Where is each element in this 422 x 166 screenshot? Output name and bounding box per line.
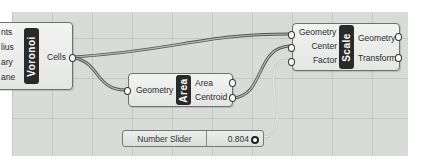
scale-output-geometry[interactable]: Geometry	[358, 33, 395, 43]
scale-input-geometry[interactable]: Geometry	[299, 27, 336, 37]
scale-geometry-in-grip[interactable]	[288, 31, 295, 39]
scale-component[interactable]: Geometry Center Factor Scale Geometry Tr…	[292, 23, 400, 71]
voronoi-input-points[interactable]: nts	[1, 27, 12, 37]
scale-label: Scale	[339, 25, 354, 69]
voronoi-output-cells[interactable]: Cells	[47, 52, 66, 62]
area-area-grip[interactable]	[229, 79, 236, 87]
area-output-area[interactable]: Area	[195, 78, 213, 88]
number-slider[interactable]: Number Slider 0.804	[122, 130, 264, 147]
voronoi-cells-grip[interactable]	[69, 54, 76, 62]
voronoi-input-boundary[interactable]: ary	[1, 57, 13, 67]
scale-center-grip[interactable]	[288, 44, 295, 52]
slider-name: Number Slider	[123, 131, 207, 146]
area-geometry-grip[interactable]	[124, 87, 131, 95]
area-centroid-grip[interactable]	[229, 94, 236, 102]
voronoi-label: Voronoi	[24, 28, 39, 84]
scale-input-factor[interactable]: Factor	[313, 55, 337, 65]
area-input-geometry[interactable]: Geometry	[136, 85, 173, 95]
area-label: Area	[176, 75, 191, 105]
scale-transform-out-grip[interactable]	[395, 54, 402, 62]
voronoi-input-plane[interactable]: ane	[1, 72, 15, 82]
voronoi-input-radius[interactable]: lius	[1, 42, 14, 52]
scale-input-center[interactable]: Center	[311, 41, 337, 51]
slider-knob[interactable]	[251, 136, 259, 144]
voronoi-component[interactable]: nts lius ary ane Voronoi Cells	[0, 22, 73, 90]
scale-factor-grip[interactable]	[288, 58, 295, 66]
slider-value: 0.804	[228, 131, 249, 146]
area-output-centroid[interactable]: Centroid	[195, 92, 227, 102]
scale-geometry-out-grip[interactable]	[395, 33, 402, 41]
scale-output-transform[interactable]: Transform	[358, 53, 396, 63]
area-component[interactable]: Geometry Area Area Centroid	[128, 73, 233, 107]
